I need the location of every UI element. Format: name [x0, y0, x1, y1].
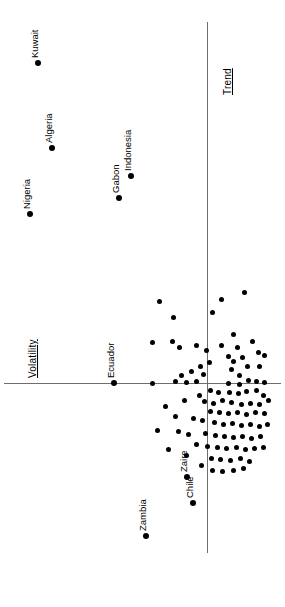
data-point — [208, 388, 213, 393]
data-point — [173, 379, 178, 384]
data-point — [215, 445, 220, 450]
data-point — [226, 381, 231, 386]
data-point — [236, 391, 241, 396]
data-point — [254, 388, 259, 393]
data-point — [177, 345, 182, 350]
data-point-label: Gabon — [111, 164, 121, 193]
data-point — [257, 424, 262, 429]
data-point — [227, 390, 232, 395]
data-point — [194, 343, 199, 348]
data-point — [212, 420, 217, 425]
data-point — [201, 372, 206, 377]
data-point — [261, 393, 266, 398]
data-point — [226, 354, 231, 359]
data-point — [244, 412, 249, 417]
data-point — [208, 409, 213, 414]
data-point-labeled — [111, 380, 117, 386]
data-point — [235, 410, 240, 415]
data-point — [220, 469, 225, 474]
data-point — [266, 398, 271, 403]
data-point — [234, 445, 239, 450]
data-point — [186, 432, 191, 437]
data-point — [235, 345, 240, 350]
data-point-labeled — [116, 195, 122, 201]
data-point — [262, 380, 267, 385]
data-point — [229, 367, 234, 372]
data-point — [240, 355, 245, 360]
data-point — [182, 398, 187, 403]
data-point — [226, 411, 231, 416]
axis-title-trend: Trend — [222, 68, 233, 95]
data-point — [176, 429, 181, 434]
data-point — [202, 399, 207, 404]
data-point — [231, 435, 236, 440]
data-point — [241, 466, 246, 471]
data-point — [257, 402, 262, 407]
data-point — [219, 343, 224, 348]
data-point-label: Chile — [185, 476, 195, 498]
data-point — [240, 434, 245, 439]
data-point — [207, 360, 212, 365]
data-point — [262, 411, 267, 416]
data-point — [231, 468, 236, 473]
data-point — [228, 458, 233, 463]
data-point — [261, 445, 266, 450]
data-point — [179, 373, 184, 378]
scatter-plot-figure: TrendVolatilityKuwaitAlgeriaNigeriaIndon… — [0, 0, 285, 607]
data-point — [265, 422, 270, 427]
data-point — [248, 401, 253, 406]
data-point — [253, 410, 258, 415]
data-point — [244, 389, 249, 394]
data-point — [250, 339, 255, 344]
data-point — [243, 447, 248, 452]
data-point — [237, 382, 242, 387]
data-point — [220, 398, 225, 403]
data-point — [197, 393, 202, 398]
data-point — [213, 433, 218, 438]
data-point — [194, 379, 199, 384]
data-point — [204, 348, 209, 353]
data-point — [262, 353, 267, 358]
data-point — [242, 290, 247, 295]
data-point-label: Zaire — [179, 450, 189, 472]
data-point — [224, 446, 229, 451]
data-point — [150, 381, 155, 386]
data-point-labeled — [27, 211, 33, 217]
data-point — [198, 364, 203, 369]
data-point-label: Algeria — [44, 113, 54, 143]
data-point — [222, 434, 227, 439]
data-point — [210, 468, 215, 473]
data-point — [239, 423, 244, 428]
data-point — [217, 410, 222, 415]
axis-title-volatility: Volatility — [27, 339, 38, 378]
data-point — [231, 332, 236, 337]
data-point — [238, 456, 243, 461]
data-point-label: Ecuador — [106, 343, 116, 378]
vertical-axis-line — [207, 22, 208, 553]
data-point — [200, 418, 205, 423]
data-point — [199, 463, 204, 468]
data-point — [239, 402, 244, 407]
data-point-label: Zambia — [138, 499, 148, 531]
data-point — [191, 416, 196, 421]
data-point — [157, 299, 162, 304]
data-point — [166, 447, 171, 452]
data-point — [209, 456, 214, 461]
data-point — [216, 390, 221, 395]
data-point — [219, 297, 224, 302]
data-point — [257, 364, 262, 369]
data-point-label: Indonesia — [123, 130, 133, 171]
data-point — [258, 434, 263, 439]
data-point — [248, 422, 253, 427]
data-point — [221, 422, 226, 427]
data-point — [247, 459, 252, 464]
data-point — [254, 379, 259, 384]
data-point — [210, 310, 215, 315]
data-point — [211, 401, 216, 406]
data-point — [229, 400, 234, 405]
data-point — [155, 428, 160, 433]
data-point — [245, 364, 250, 369]
data-point — [189, 369, 194, 374]
data-point — [237, 373, 242, 378]
data-point — [256, 350, 261, 355]
